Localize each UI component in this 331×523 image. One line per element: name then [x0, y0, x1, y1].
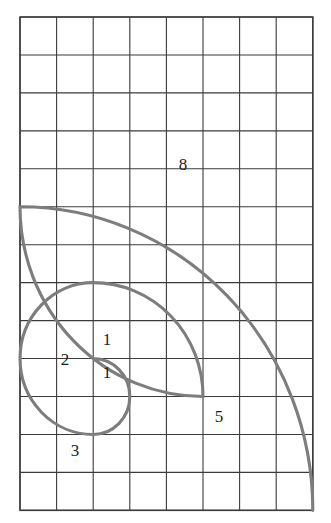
label-two: 2: [61, 350, 70, 369]
label-five: 5: [215, 407, 224, 426]
label-eight: 8: [179, 155, 188, 174]
grid-vertical-lines: [20, 17, 313, 510]
label-three: 3: [71, 441, 80, 460]
spiral-svg: 8 1 2 1 5 3: [0, 0, 331, 523]
fibonacci-spiral-figure: 8 1 2 1 5 3: [0, 0, 331, 523]
label-one-upper: 1: [103, 330, 112, 349]
square-size-labels: 8 1 2 1 5 3: [61, 155, 224, 460]
label-one-lower: 1: [103, 363, 112, 382]
